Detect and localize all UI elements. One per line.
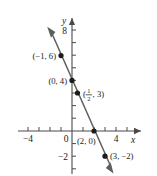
point-label-2-0: (2, 0) bbox=[77, 136, 96, 146]
fraction-denominator: 2 bbox=[87, 95, 90, 102]
x-axis-label: x bbox=[130, 135, 136, 145]
data-point bbox=[69, 78, 74, 83]
point-label-half-3-rest: , 3) bbox=[93, 89, 105, 99]
point-label-half-3: ( 1 2 , 3) bbox=[83, 87, 104, 102]
data-point bbox=[58, 53, 63, 58]
point-label-neg1-6: (−1, 6) bbox=[33, 51, 57, 61]
x-axis-ticks bbox=[28, 127, 127, 131]
data-point bbox=[91, 128, 96, 133]
coordinate-plane-figure: −4 0 4 8 −2 x y (−1, 6) (0, 4) ( 1 2 , 3… bbox=[0, 0, 157, 176]
graph-canvas: −4 0 4 8 −2 x y (−1, 6) (0, 4) ( 1 2 , 3… bbox=[0, 0, 157, 176]
fraction-numerator: 1 bbox=[87, 87, 90, 94]
x-axis bbox=[18, 127, 141, 134]
y-tick-label-neg2: −2 bbox=[58, 152, 68, 162]
point-label-0-4: (0, 4) bbox=[48, 76, 67, 86]
y-axis-ticks bbox=[72, 30, 76, 169]
x-tick-label-4: 4 bbox=[114, 134, 119, 144]
point-label-3-neg2: (3, −2) bbox=[110, 151, 134, 161]
point-label-half-3-open: ( bbox=[83, 89, 86, 99]
data-point bbox=[75, 90, 80, 95]
x-tick-label-neg4: −4 bbox=[23, 134, 33, 144]
y-axis bbox=[69, 18, 76, 174]
x-tick-label-0: 0 bbox=[64, 134, 69, 144]
y-tick-label-8: 8 bbox=[62, 26, 67, 36]
y-axis-label: y bbox=[61, 16, 67, 26]
data-point bbox=[102, 154, 107, 159]
